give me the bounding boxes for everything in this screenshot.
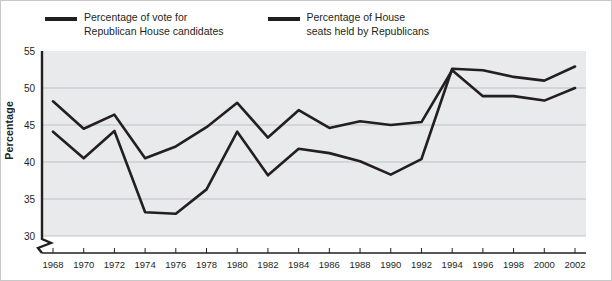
y-tick-label: 45 bbox=[9, 120, 35, 131]
x-tick-label: 2002 bbox=[555, 259, 595, 270]
y-tick-label: 55 bbox=[9, 46, 35, 57]
y-tick-label: 35 bbox=[9, 194, 35, 205]
plot-background-group bbox=[42, 51, 586, 236]
plot-area: 303540455055 196819701972197419761978198… bbox=[1, 1, 612, 281]
chart-figure: Percentage of vote for Republican House … bbox=[0, 0, 612, 281]
plot-background bbox=[42, 51, 586, 236]
y-tick-label: 50 bbox=[9, 83, 35, 94]
plot-svg bbox=[1, 1, 612, 281]
y-tick-label: 40 bbox=[9, 157, 35, 168]
y-tick-label: 30 bbox=[9, 231, 35, 242]
